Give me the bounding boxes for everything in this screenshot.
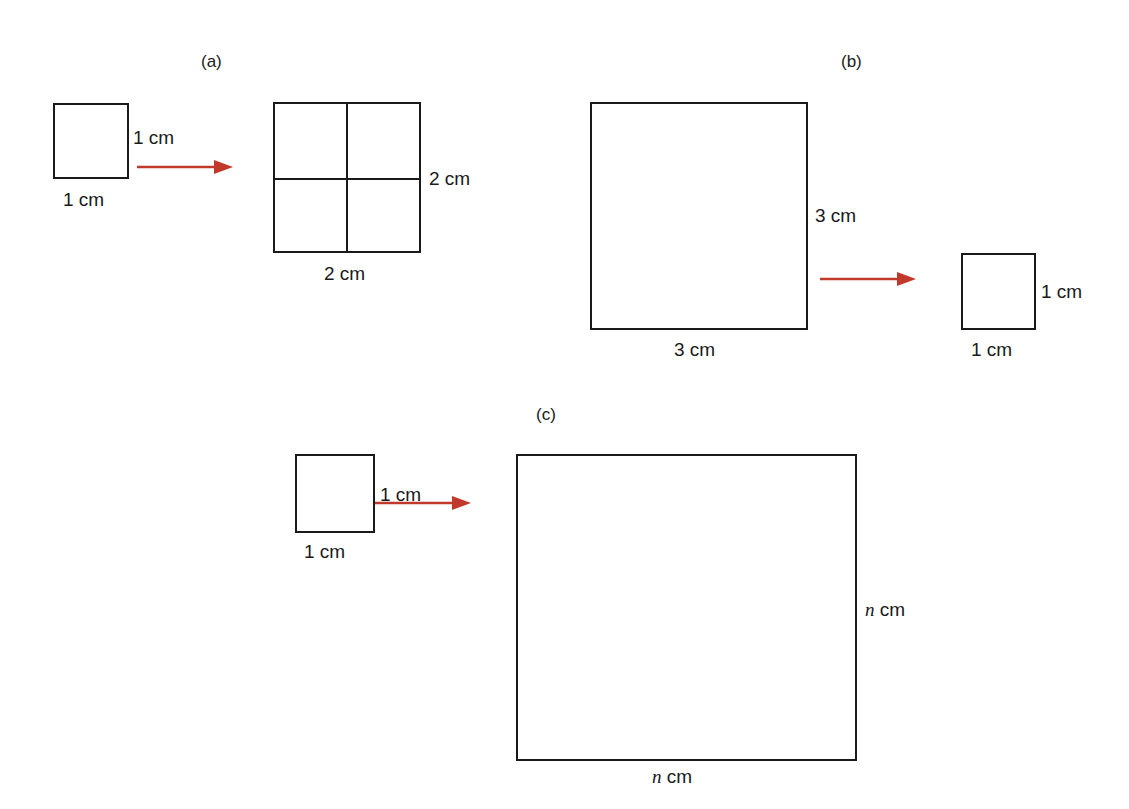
panel-a-horizontal-divider (274, 178, 420, 180)
panel-a-unit-side-label: 1 cm (133, 128, 174, 147)
panel-b-large-side-label: 3 cm (815, 206, 856, 225)
panel-b-unit-side-label: 1 cm (1041, 282, 1082, 301)
panel-a-doubled-side-label: 2 cm (429, 169, 470, 188)
panel-b-large-square (590, 102, 808, 330)
unit-text: cm (662, 766, 693, 787)
panel-b-arrow-icon (819, 270, 919, 288)
panel-c-n-bottom-label: n cm (652, 767, 692, 786)
panel-a-label: (a) (201, 53, 222, 70)
panel-a-arrow-icon (136, 158, 236, 176)
n-variable: n (652, 766, 662, 787)
scaling-squares-figure: (a) 1 cm 1 cm 2 cm 2 cm (b) 3 cm 3 cm 1 … (0, 0, 1129, 809)
panel-c-n-side-label: n cm (865, 600, 905, 619)
panel-b-unit-bottom-label: 1 cm (971, 340, 1012, 359)
panel-c-label: (c) (536, 406, 556, 423)
panel-c-arrow-icon (374, 494, 474, 512)
panel-b-label: (b) (841, 53, 862, 70)
panel-a-unit-bottom-label: 1 cm (63, 190, 104, 209)
panel-c-unit-bottom-label: 1 cm (304, 542, 345, 561)
panel-a-doubled-bottom-label: 2 cm (324, 264, 365, 283)
panel-a-unit-square (53, 103, 129, 179)
panel-b-unit-square (961, 253, 1036, 330)
panel-b-large-bottom-label: 3 cm (674, 340, 715, 359)
panel-c-unit-square (295, 454, 375, 533)
unit-text: cm (875, 599, 906, 620)
n-variable: n (865, 599, 875, 620)
panel-c-n-square (516, 454, 857, 761)
